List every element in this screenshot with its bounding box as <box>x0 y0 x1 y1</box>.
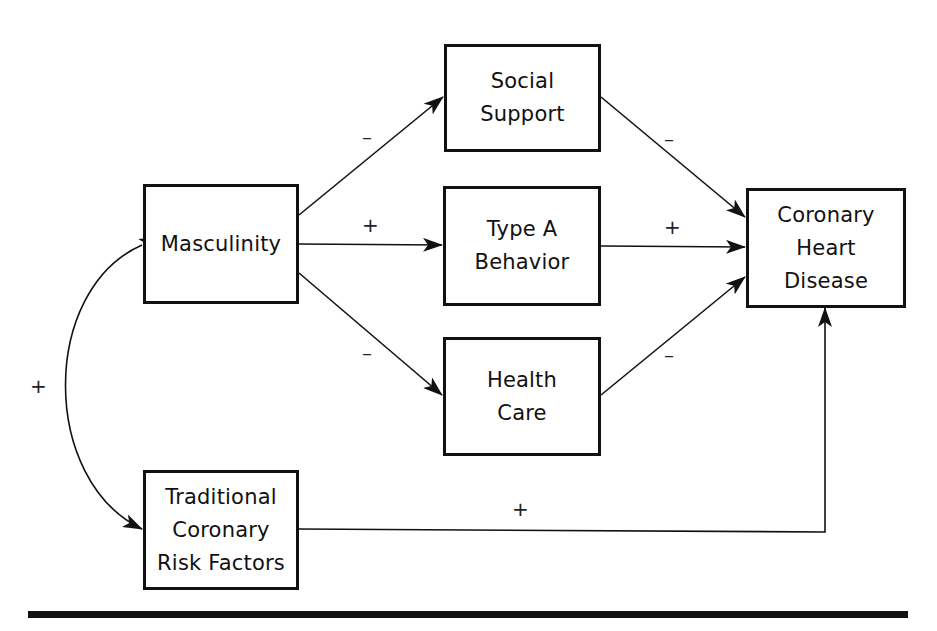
arrow-type-a-chd <box>601 246 745 247</box>
sign-health-care-chd: – <box>664 345 674 365</box>
node-label: Risk Factors <box>157 547 285 580</box>
node-label: Social <box>491 65 554 98</box>
node-label: Coronary <box>172 514 269 547</box>
sign-masculinity-risk-factors: + <box>30 376 47 396</box>
arrow-health-care-chd <box>601 277 745 395</box>
node-social-support: Social Support <box>444 44 601 152</box>
arrow-masculinity-type-a <box>299 244 442 245</box>
node-label: Care <box>497 397 546 430</box>
node-masculinity: Masculinity <box>143 184 299 304</box>
node-label: Support <box>480 98 564 131</box>
node-label: Behavior <box>475 246 570 279</box>
node-label: Disease <box>784 265 868 298</box>
node-health-care: Health Care <box>443 337 601 456</box>
arrow-masculinity-health-care <box>299 273 442 395</box>
node-coronary-heart-disease: Coronary Heart Disease <box>746 188 906 308</box>
arrow-masculinity-social-support <box>299 97 443 215</box>
node-label: Heart <box>796 232 855 265</box>
node-label: Traditional <box>165 481 277 514</box>
node-label: Type A <box>487 213 557 246</box>
arrow-masculinity-risk-factors-correlation <box>66 245 143 529</box>
sign-masculinity-social-support: – <box>362 127 372 147</box>
arrow-social-support-chd <box>601 97 745 217</box>
sign-type-a-chd: + <box>664 217 681 237</box>
node-traditional-risk-factors: Traditional Coronary Risk Factors <box>143 470 299 590</box>
node-label: Health <box>487 364 557 397</box>
sign-social-support-chd: – <box>664 129 674 149</box>
bottom-rule <box>28 611 908 618</box>
node-type-a-behavior: Type A Behavior <box>443 186 601 306</box>
sign-masculinity-health-care: – <box>362 343 372 363</box>
sign-masculinity-type-a: + <box>362 215 379 235</box>
node-label: Coronary <box>777 199 874 232</box>
sign-risk-factors-chd: + <box>512 499 529 519</box>
node-label: Masculinity <box>161 228 281 261</box>
